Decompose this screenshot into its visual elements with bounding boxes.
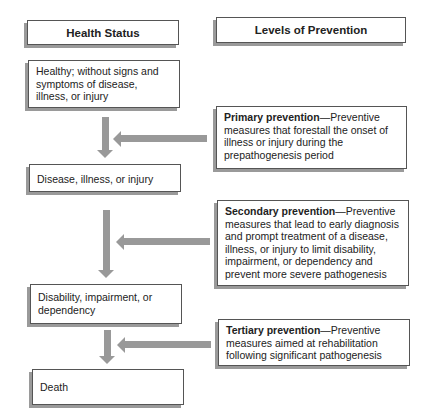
prevention-box-tertiary: Tertiary prevention—Preventive measures … xyxy=(218,319,410,366)
status-box-healthy: Healthy; without signs and symptoms of d… xyxy=(28,60,180,108)
prevention-box-secondary: Secondary prevention—Preventive measures… xyxy=(217,200,409,286)
status-box-disease: Disease, illness, or injury xyxy=(29,164,181,192)
status-healthy-text: Healthy; without signs and symptoms of d… xyxy=(36,65,159,102)
primary-title: Primary prevention xyxy=(224,111,320,123)
status-disability-text: Disability, impairment, or dependency xyxy=(38,291,152,316)
tertiary-title: Tertiary prevention xyxy=(226,324,320,336)
header-health-status: Health Status xyxy=(27,20,179,45)
status-box-death: Death xyxy=(32,369,184,405)
prevention-box-primary: Primary prevention—Preventive measures t… xyxy=(216,106,407,169)
status-death-text: Death xyxy=(40,381,68,393)
tertiary-dash: — xyxy=(320,324,331,336)
status-disease-text: Disease, illness, or injury xyxy=(37,173,153,185)
status-box-disability: Disability, impairment, or dependency xyxy=(30,284,182,324)
header-levels-of-prevention: Levels of Prevention xyxy=(216,17,406,43)
primary-dash: — xyxy=(320,111,331,123)
secondary-title: Secondary prevention xyxy=(225,205,335,217)
secondary-dash: — xyxy=(335,205,346,217)
header-levels-label: Levels of Prevention xyxy=(255,24,367,36)
header-health-status-label: Health Status xyxy=(66,27,140,39)
